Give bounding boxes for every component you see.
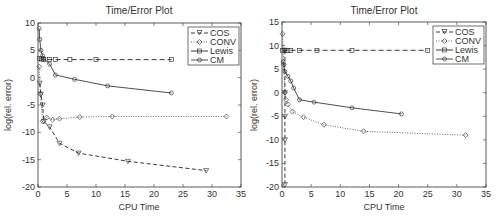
x-tick-label: 5 [309,189,314,199]
right-time-error-plot: Time/Error Plot CPU Time log(rel. error)… [249,5,491,212]
y-tick-label: -20 [22,182,35,192]
x-tick-label: 25 [423,189,433,199]
svg-text:CM: CM [210,55,224,65]
x-tick-label: 35 [481,189,491,199]
series-cos [37,81,208,173]
svg-text:CM: CM [455,54,469,64]
y-tick-label: -10 [22,127,35,137]
y-tick-label: 5 [30,45,35,55]
y-axis-label: log(rel. error) [249,79,259,131]
plot-title: Time/Error Plot [106,5,173,16]
y-tick-label: -5 [271,111,279,121]
series-conv [37,64,229,124]
legend: COS CONV Lewis CM [433,26,484,64]
y-tick-label: -10 [266,135,279,145]
y-axis-label: log(rel. error) [3,79,13,131]
y-tick-label: 10 [25,18,35,28]
series-lewis [38,57,174,62]
x-tick-label: 0 [35,189,40,199]
x-axis-label: CPU Time [363,202,404,212]
y-tick-label: -20 [266,182,279,192]
series-cm [281,60,403,116]
x-tick-label: 0 [279,189,284,199]
x-tick-label: 15 [364,189,374,199]
y-tick-label: 15 [269,17,279,27]
y-tick-label: 0 [274,88,279,98]
series-lewis [281,48,430,52]
x-tick-label: 20 [149,189,159,199]
y-tick-label: -15 [266,158,279,168]
y-tick-label: 0 [30,73,35,83]
y-tick-label: -15 [22,155,35,165]
y-tick-label: -5 [27,100,35,110]
x-tick-label: 35 [236,189,246,199]
x-tick-label: 30 [452,189,462,199]
left-time-error-plot: Time/Error Plot CPU Time log(rel. error)… [3,5,246,212]
legend: COS CONV Lewis CM [188,27,239,65]
x-axis-label: CPU Time [118,202,159,212]
figure: Time/Error Plot CPU Time log(rel. error)… [0,0,501,218]
x-tick-label: 10 [335,189,345,199]
plot-title: Time/Error Plot [351,5,418,16]
y-tick-label: 5 [274,64,279,74]
x-tick-label: 20 [394,189,404,199]
x-tick-label: 25 [178,189,188,199]
x-tick-label: 10 [91,189,101,199]
x-tick-label: 5 [64,189,69,199]
x-tick-label: 30 [207,189,217,199]
x-tick-label: 15 [120,189,130,199]
y-tick-label: 10 [269,41,279,51]
